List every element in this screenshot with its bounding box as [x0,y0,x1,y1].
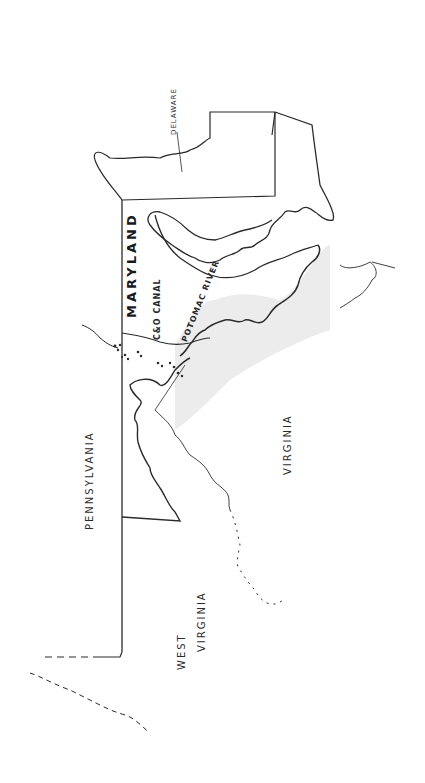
label-delaware: DELAWARE [170,88,178,135]
delaware-leader-line [177,132,182,172]
va-wv-border [155,410,230,510]
label-west-virginia-line2: VIRGINIA [196,591,207,652]
chesapeake-west-shore [155,215,318,278]
va-wv-border-dotted [230,510,283,604]
label-pennsylvania: PENNSYLVANIA [84,431,95,530]
label-maryland: MARYLAND [124,212,139,318]
canal-locks [114,344,184,377]
label-west-virginia-line1: WEST [176,633,187,670]
shaded-region [175,245,330,430]
label-co-canal: C&O CANAL [153,279,162,340]
maryland-delaware-border [122,112,275,200]
river-fragment [340,262,395,308]
pa-wv-border [100,652,122,657]
southern-boundary [30,673,150,733]
maryland-map-drawing [0,0,425,783]
label-virginia: VIRGINIA [282,414,293,475]
delaware-north-border [94,112,275,200]
pa-stream [82,325,118,348]
